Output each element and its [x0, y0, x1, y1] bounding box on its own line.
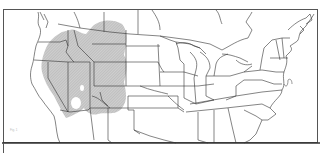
coast-detail: [284, 79, 292, 86]
map-caption: Fig. 1: [10, 128, 18, 132]
shaded-range-area: [41, 20, 126, 132]
range-map: Fig. 1: [0, 0, 320, 153]
map-svg: [0, 0, 320, 153]
